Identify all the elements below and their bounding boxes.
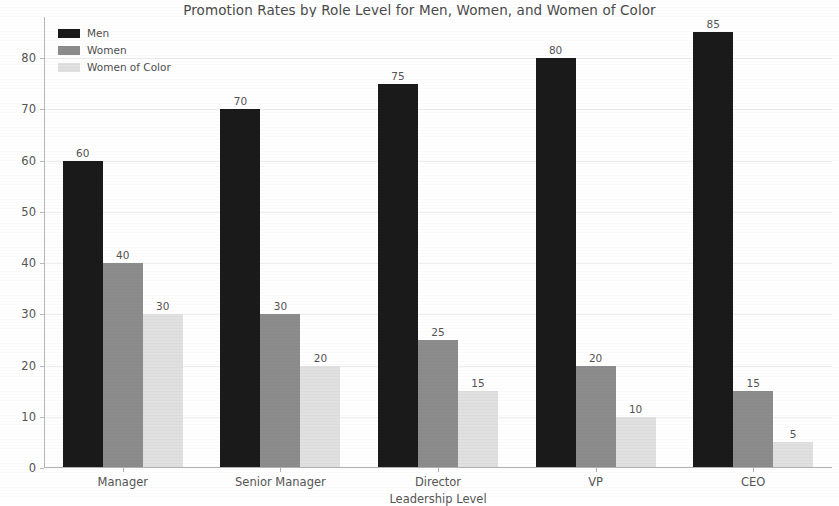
legend-swatch xyxy=(58,46,80,55)
x-tick-label: CEO xyxy=(741,475,765,489)
y-tick-mark xyxy=(40,468,44,469)
bar-value-label: 60 xyxy=(76,147,89,159)
bar-value-label: 70 xyxy=(234,95,247,107)
bar: 25 xyxy=(418,340,458,467)
plot-area: 01020304050607080 6040307030207525158020… xyxy=(44,17,832,468)
bar: 80 xyxy=(536,58,576,467)
x-tick-label: Director xyxy=(415,475,461,489)
x-tick-label: Manager xyxy=(98,475,148,489)
bar: 15 xyxy=(733,391,773,467)
legend-item: Women xyxy=(58,44,171,56)
bar: 40 xyxy=(103,263,143,467)
legend-swatch xyxy=(58,29,80,38)
y-axis-spine xyxy=(44,17,45,468)
bar-value-label: 20 xyxy=(589,352,602,364)
bar: 30 xyxy=(260,314,300,467)
bar: 30 xyxy=(143,314,183,467)
bar: 20 xyxy=(300,366,340,468)
y-tick-label: 30 xyxy=(21,307,36,321)
bar: 10 xyxy=(616,417,656,467)
y-tick-label: 20 xyxy=(21,359,36,373)
bar: 5 xyxy=(773,442,813,467)
y-tick-label: 60 xyxy=(21,154,36,168)
x-axis-spine xyxy=(44,467,832,468)
y-tick-label: 0 xyxy=(29,461,36,475)
chart-legend: MenWomenWomen of Color xyxy=(58,27,171,73)
legend-swatch xyxy=(58,63,80,72)
bar-value-label: 5 xyxy=(790,428,797,440)
x-tick-label: VP xyxy=(588,475,603,489)
x-tick-mark xyxy=(280,468,281,472)
bar: 20 xyxy=(576,366,616,468)
y-tick-label: 40 xyxy=(21,256,36,270)
bar-value-label: 25 xyxy=(431,326,444,338)
bar-value-label: 85 xyxy=(707,18,720,30)
bar: 15 xyxy=(458,391,498,467)
y-tick-label: 50 xyxy=(21,205,36,219)
bar-value-label: 40 xyxy=(116,249,129,261)
bar-value-label: 20 xyxy=(314,352,327,364)
bar: 60 xyxy=(63,161,103,468)
y-tick-label: 80 xyxy=(21,51,36,65)
legend-label: Women of Color xyxy=(87,61,171,73)
bar-value-label: 75 xyxy=(391,70,404,82)
x-tick-mark xyxy=(438,468,439,472)
bar: 70 xyxy=(220,109,260,467)
legend-item: Men xyxy=(58,27,171,39)
x-tick-mark xyxy=(596,468,597,472)
bar-value-label: 15 xyxy=(471,377,484,389)
legend-item: Women of Color xyxy=(58,61,171,73)
x-tick-label: Senior Manager xyxy=(235,475,326,489)
y-tick-label: 70 xyxy=(21,102,36,116)
bar-value-label: 10 xyxy=(629,403,642,415)
legend-label: Women xyxy=(87,44,127,56)
y-tick-label: 10 xyxy=(21,410,36,424)
legend-label: Men xyxy=(87,27,109,39)
x-tick-mark xyxy=(753,468,754,472)
bar: 75 xyxy=(378,84,418,467)
chart-title: Promotion Rates by Role Level for Men, W… xyxy=(0,2,839,18)
bar: 85 xyxy=(693,32,733,467)
bar-value-label: 80 xyxy=(549,44,562,56)
bar-value-label: 30 xyxy=(156,300,169,312)
x-axis-label: Leadership Level xyxy=(44,492,832,506)
bar-value-label: 15 xyxy=(747,377,760,389)
x-tick-mark xyxy=(123,468,124,472)
bar-value-label: 30 xyxy=(274,300,287,312)
